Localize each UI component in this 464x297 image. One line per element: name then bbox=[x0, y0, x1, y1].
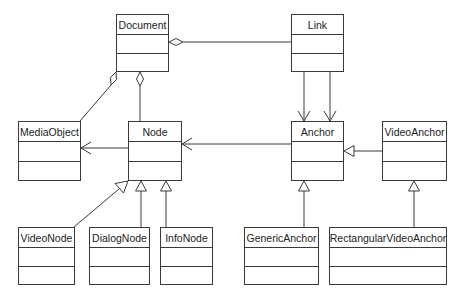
aggregation-document-mediaobject bbox=[80, 72, 117, 121]
class-name: VideoAnchor bbox=[383, 122, 446, 142]
attributes-compartment bbox=[245, 248, 318, 267]
class-mediaobject: MediaObject bbox=[18, 121, 81, 181]
class-genericanchor: GenericAnchor bbox=[244, 227, 319, 285]
operations-compartment bbox=[383, 162, 446, 181]
class-videoanchor: VideoAnchor bbox=[382, 121, 447, 181]
generalization-genericanchor-anchor bbox=[299, 181, 310, 227]
attributes-compartment bbox=[292, 35, 343, 54]
attributes-compartment bbox=[90, 248, 149, 267]
attributes-compartment bbox=[292, 142, 343, 162]
association-anchor-node bbox=[182, 138, 291, 150]
generalization-videoanchor-anchor bbox=[344, 146, 382, 157]
class-node: Node bbox=[128, 121, 182, 181]
class-name: Document bbox=[117, 15, 168, 35]
class-infonode: InfoNode bbox=[160, 227, 213, 285]
generalization-videonode-node bbox=[74, 181, 128, 227]
operations-compartment bbox=[19, 162, 80, 181]
operations-compartment bbox=[19, 267, 74, 285]
attributes-compartment bbox=[383, 142, 446, 162]
operations-compartment bbox=[330, 267, 446, 285]
association-link-anchor-1 bbox=[298, 72, 310, 121]
operations-compartment bbox=[117, 54, 168, 72]
association-node-mediaobject bbox=[81, 142, 128, 154]
class-name: GenericAnchor bbox=[245, 228, 318, 248]
attributes-compartment bbox=[129, 142, 181, 162]
class-name: MediaObject bbox=[19, 122, 80, 142]
class-link: Link bbox=[291, 14, 344, 72]
operations-compartment bbox=[245, 267, 318, 285]
attributes-compartment bbox=[117, 35, 168, 54]
aggregation-document-link bbox=[169, 39, 291, 46]
uml-diagram-canvas: Document Link MediaObject Node Anchor Vi… bbox=[0, 0, 464, 297]
class-name: Anchor bbox=[292, 122, 343, 142]
class-name: Node bbox=[129, 122, 181, 142]
class-name: Link bbox=[292, 15, 343, 35]
class-rectangularvideoanchor: RectangularVideoAnchor bbox=[329, 227, 447, 285]
operations-compartment bbox=[292, 162, 343, 181]
class-videonode: VideoNode bbox=[18, 227, 75, 285]
generalization-dialognode-node bbox=[136, 181, 147, 227]
class-name: DialogNode bbox=[90, 228, 149, 248]
generalization-rectangularvideoanchor-videoanchor bbox=[409, 181, 420, 227]
class-name: VideoNode bbox=[19, 228, 74, 248]
aggregation-document-node bbox=[137, 72, 144, 121]
class-document: Document bbox=[116, 14, 169, 72]
operations-compartment bbox=[90, 267, 149, 285]
attributes-compartment bbox=[330, 248, 446, 267]
class-name: InfoNode bbox=[161, 228, 212, 248]
operations-compartment bbox=[292, 54, 343, 72]
attributes-compartment bbox=[19, 142, 80, 162]
attributes-compartment bbox=[161, 248, 212, 267]
class-name: RectangularVideoAnchor bbox=[330, 228, 446, 248]
operations-compartment bbox=[129, 162, 181, 181]
generalization-infonode-node bbox=[161, 181, 172, 227]
class-dialognode: DialogNode bbox=[89, 227, 150, 285]
class-anchor: Anchor bbox=[291, 121, 344, 181]
attributes-compartment bbox=[19, 248, 74, 267]
association-link-anchor-2 bbox=[324, 72, 336, 121]
operations-compartment bbox=[161, 267, 212, 285]
